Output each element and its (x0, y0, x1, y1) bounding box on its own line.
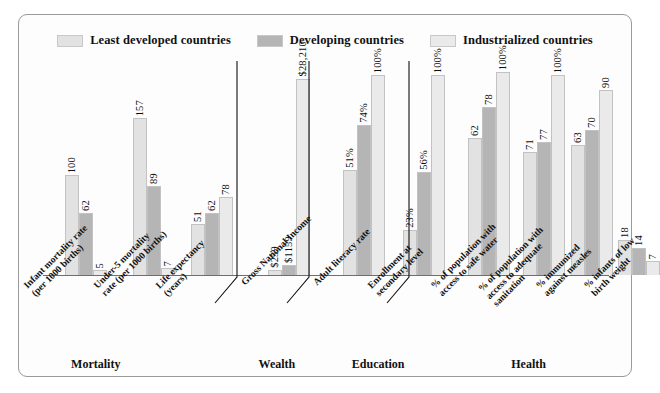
legend-label: Industrialized countries (463, 33, 593, 48)
bar-item[interactable]: 7 (646, 261, 660, 275)
bar-value-label: 74% (359, 103, 370, 123)
bar-value-label: 70 (587, 117, 598, 128)
bar[interactable] (371, 75, 385, 275)
bar-value-label: 157 (135, 100, 146, 116)
bar-item[interactable]: 74% (357, 125, 371, 275)
bar-item[interactable]: $28,210 (296, 79, 310, 275)
bar-item[interactable]: 100% (496, 72, 510, 275)
bar[interactable] (282, 265, 296, 275)
bar-item[interactable]: 90 (599, 90, 613, 275)
bar-value-label: 100% (553, 48, 564, 73)
bar-value-label: 63 (573, 132, 584, 143)
section-label: Mortality (71, 357, 120, 372)
bar[interactable] (219, 197, 233, 275)
legend-label: Least developed countries (90, 33, 231, 48)
bar-value-label: 56% (419, 150, 430, 170)
section-label: Education (352, 357, 405, 372)
bar-value-label: 78 (484, 94, 495, 105)
legend-item: Industrialized countries (430, 33, 593, 48)
bar-value-label: 5 (95, 263, 106, 268)
bar-value-label: 77 (539, 129, 550, 140)
bar[interactable] (646, 261, 660, 275)
bar[interactable] (431, 75, 445, 275)
bar-value-label: 62 (470, 125, 481, 136)
bar-value-label: 23% (405, 208, 416, 228)
bar-value-label: 51 (193, 211, 204, 222)
bar-value-label: 89 (149, 173, 160, 184)
bar[interactable] (496, 72, 510, 275)
bar-item[interactable]: 100% (371, 75, 385, 275)
bar-item[interactable]: 78 (219, 197, 233, 275)
bar-value-label: 62 (207, 200, 218, 211)
bar-value-label: 78 (221, 184, 232, 195)
legend-swatch-icon (257, 35, 283, 47)
bar-item[interactable]: 100% (431, 75, 445, 275)
bar-value-label: 51% (345, 148, 356, 168)
bar-value-label: 62 (81, 200, 92, 211)
bar-value-label: 100% (373, 48, 384, 73)
section-labels: MortalityWealthEducationHealth (19, 357, 633, 381)
bar-value-label: 100% (498, 45, 509, 70)
bar[interactable] (205, 213, 219, 275)
bar[interactable] (296, 79, 310, 275)
legend-item: Least developed countries (57, 33, 231, 48)
bar-value-label: 7 (648, 254, 659, 259)
chart-frame: Least developed countriesDeveloping coun… (18, 14, 632, 377)
bar-item[interactable]: 62 (205, 213, 219, 275)
section-label: Health (511, 357, 546, 372)
legend-item: Developing countries (257, 33, 404, 48)
chart-legend: Least developed countriesDeveloping coun… (19, 33, 631, 48)
bar[interactable] (599, 90, 613, 275)
bar-item[interactable]: $1159 (282, 265, 296, 275)
bar-value-label: $28,210 (298, 41, 309, 77)
legend-swatch-icon (430, 35, 456, 47)
bar-value-label: 90 (601, 77, 612, 88)
bar[interactable] (357, 125, 371, 275)
section-label: Wealth (259, 357, 296, 372)
bar-value-label: 71 (525, 139, 536, 150)
bar-value-label: 100 (67, 157, 78, 173)
bar-value-label: 100% (433, 48, 444, 73)
legend-swatch-icon (57, 35, 83, 47)
x-axis-labels: Infant mortality rate(per 1000 births)Un… (19, 277, 633, 367)
